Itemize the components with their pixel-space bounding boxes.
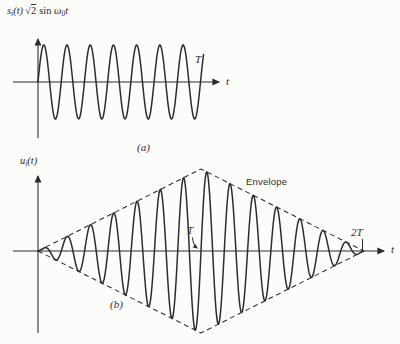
plot-a-T-marker-label: T (195, 53, 201, 65)
radicand: 2 (31, 4, 36, 16)
envelope-label: Envelope (246, 177, 287, 187)
plot-b (13, 169, 384, 333)
plot-a-t-axis-label: t (226, 75, 229, 87)
t-marker-leader-arrow (193, 238, 198, 249)
plot-a-caption: (a) (137, 141, 150, 153)
radical-sign: √ (25, 5, 31, 16)
plot-b-T-marker-label: T (187, 224, 193, 236)
plot-b-signal-label: ui(t) (20, 155, 37, 167)
plot-b-t-axis-label: t (391, 243, 394, 255)
plot-a (13, 39, 219, 138)
waveform-svg (0, 0, 400, 344)
figure-container: si(t)√2sin ω0t T t (a) ui(t) Envelope T … (0, 0, 400, 344)
eq-arg: (t) (13, 5, 23, 16)
sig-arg: (t) (27, 155, 37, 166)
sin-function: sin (39, 5, 51, 16)
time-variable: t (65, 5, 68, 16)
plot-b-2T-marker-label: 2T (351, 226, 363, 238)
plot-a-equation-label: si(t)√2sin ω0t (7, 5, 68, 17)
plot-b-caption: (b) (110, 298, 123, 310)
